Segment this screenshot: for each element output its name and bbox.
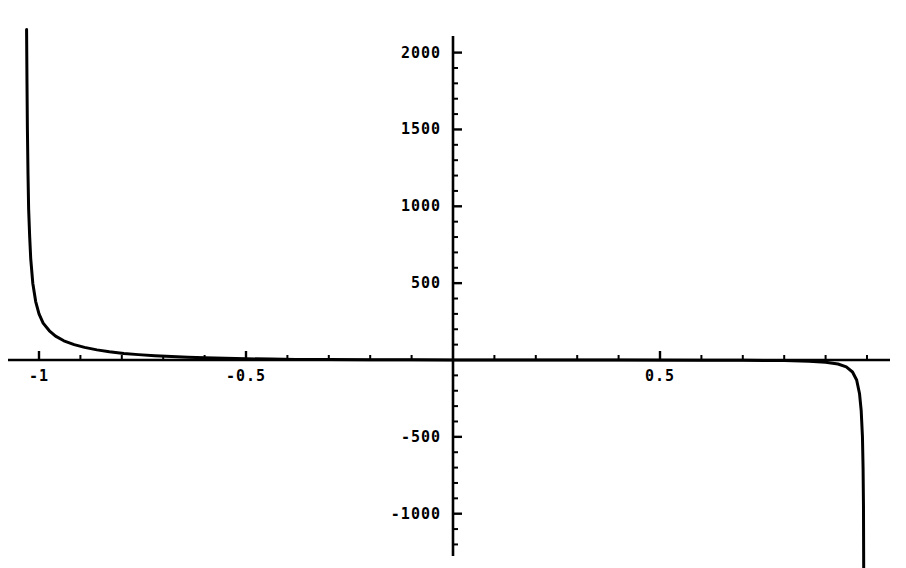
y-tick-label: 1000 [313, 199, 441, 214]
y-tick-label: 500 [313, 276, 441, 291]
x-tick-label: 0.5 [620, 369, 700, 384]
plot-canvas: -1-0.50.5200015001000500-500-1000 [0, 0, 906, 568]
y-axis-ticks [453, 53, 462, 545]
chart-svg [0, 0, 906, 568]
axis-group [8, 36, 890, 556]
y-tick-label: -500 [313, 430, 441, 445]
y-tick-label: 2000 [313, 46, 441, 61]
x-tick-label: -0.5 [206, 369, 286, 384]
x-tick-label: -1 [0, 369, 79, 384]
y-tick-label: -1000 [313, 507, 441, 522]
y-tick-label: 1500 [313, 122, 441, 137]
data-curve [27, 30, 864, 568]
